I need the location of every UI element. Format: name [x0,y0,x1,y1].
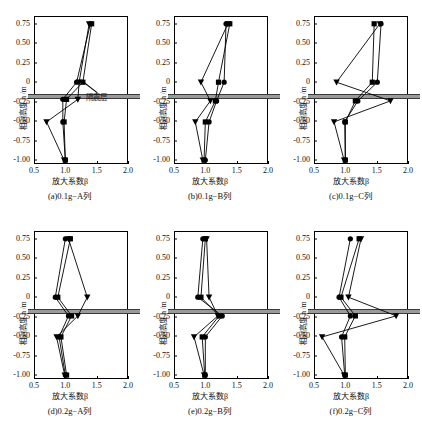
data-point-circle [348,313,353,318]
y-tick-label: -0.50 [293,117,310,125]
data-point-triangle [198,80,204,86]
x-tick-label: 1.0 [60,382,70,390]
x-tick-label: 2.0 [263,167,273,175]
x-tick-mark [128,161,129,164]
x-tick-label: 0.5 [309,382,319,390]
series-layer [314,16,408,164]
data-point-triangle [192,119,198,125]
y-tick-label: -1.00 [293,156,310,164]
y-tick-label: -1.00 [293,371,310,379]
y-tick-label: -0.75 [293,352,310,360]
y-tick-label: 0.75 [16,235,30,243]
data-point-triangle [319,334,325,340]
data-point-circle [355,98,360,103]
series-line-series-1 [345,24,374,160]
x-axis-label: 放大系数β [0,393,140,401]
x-tick-label: 1.5 [92,167,102,175]
data-point-circle [342,119,347,124]
x-tick-label: 1.5 [372,382,382,390]
panel-caption-d: (d)0.2g−A列 [0,407,140,416]
x-tick-label: 2.0 [403,382,413,390]
data-point-triangle [43,119,49,125]
x-tick-label: 1.0 [200,167,210,175]
y-tick-label: -0.50 [153,117,170,125]
series-line-series-3 [47,24,90,160]
y-tick-label: 0 [306,293,310,301]
y-tick-label: 0 [166,78,170,86]
data-point-circle [53,295,58,300]
plot-wrap-b: 0.750.500.250-0.25-0.50-0.75-1.000.51.01… [174,16,268,164]
y-tick-label: 0 [26,293,30,301]
data-point-square [216,80,221,85]
panel-caption-a: (a)0.1g−A列 [0,192,140,201]
chart-panel-e: 相对高度 h /m0.750.500.250-0.25-0.50-0.75-1.… [140,215,280,430]
y-tick-label: -0.75 [293,137,310,145]
data-point-circle [195,295,200,300]
y-tick-label: 0.50 [296,254,310,262]
y-tick-label: -0.50 [13,332,30,340]
y-tick-label: 0.25 [16,274,30,282]
series-line-series-2 [205,24,226,160]
series-line-series-3 [334,24,390,160]
series-line-series-2 [198,239,222,375]
series-line-series-1 [58,239,72,375]
y-tick-label: -0.50 [153,332,170,340]
y-tick-label: 0.75 [296,20,310,28]
plot-wrap-d: 0.750.500.250-0.25-0.50-0.75-1.000.51.01… [34,231,128,379]
y-tick-label: -0.75 [153,352,170,360]
y-tick-label: -1.00 [13,371,30,379]
y-tick-label: -0.25 [13,98,30,106]
y-tick-label: -0.75 [13,352,30,360]
y-tick-label: 0.75 [296,235,310,243]
x-axis-label: 放大系数β [0,178,140,186]
data-point-triangle [84,295,90,301]
x-tick-mark [128,376,129,379]
y-tick-label: -0.75 [153,137,170,145]
data-point-circle [222,80,227,85]
x-tick-label: 0.5 [29,167,39,175]
series-line-series-3 [57,239,88,375]
y-tick-label: 0.75 [156,235,170,243]
chart-panel-c: 相对高度 h /m0.750.500.250-0.25-0.50-0.75-1.… [280,0,422,215]
x-tick-label: 0.5 [169,167,179,175]
y-tick-label: 0.25 [16,59,30,67]
x-axis-label: 放大系数β [140,178,280,186]
figure-panel-grid: 相对高度 h /m0.750.500.250-0.25-0.50-0.75-1.… [0,0,422,430]
y-tick-label: -0.25 [293,313,310,321]
x-tick-label: 0.5 [169,382,179,390]
data-point-circle [66,313,71,318]
y-tick-label: 0.25 [156,274,170,282]
series-line-series-3 [194,239,218,375]
series-line-series-2 [55,239,68,375]
x-tick-label: 1.5 [232,167,242,175]
x-tick-label: 2.0 [263,382,273,390]
series-line-series-3 [322,239,396,375]
y-tick-label: 0 [26,78,30,86]
x-tick-label: 1.5 [232,382,242,390]
series-layer [174,16,268,164]
data-point-circle [206,119,211,124]
y-tick-label: 0.25 [296,274,310,282]
chart-panel-d: 相对高度 h /m0.750.500.250-0.25-0.50-0.75-1.… [0,215,140,430]
y-tick-label: 0 [306,78,310,86]
y-tick-label: -0.25 [13,313,30,321]
series-layer [174,231,268,379]
x-tick-label: 0.5 [29,382,39,390]
x-tick-label: 0.5 [309,167,319,175]
y-tick-label: -0.25 [153,98,170,106]
x-axis-label: 放大系数β [280,178,422,186]
x-tick-label: 2.0 [123,382,133,390]
x-tick-label: 1.5 [372,167,382,175]
data-point-square [372,21,377,26]
data-point-square [353,313,358,318]
data-point-circle [214,98,219,103]
y-tick-label: -0.50 [13,117,30,125]
data-point-circle [203,334,208,339]
y-tick-label: -1.00 [153,156,170,164]
y-tick-label: -0.25 [153,313,170,321]
data-point-circle [60,119,65,124]
y-tick-label: 0.50 [156,254,170,262]
y-tick-label: 0.75 [16,20,30,28]
data-point-triangle [206,295,212,301]
plot-wrap-a: 0.750.500.250-0.25-0.50-0.75-1.000.51.01… [34,16,128,164]
